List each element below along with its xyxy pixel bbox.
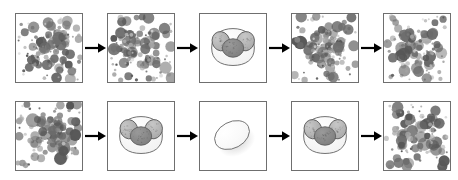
arrow-right-icon — [83, 37, 107, 59]
arrow-right-icon — [83, 125, 107, 147]
cell-suspension-panel — [291, 13, 359, 83]
cell-cluster-panel — [107, 101, 175, 171]
arrow-right-icon — [267, 125, 291, 147]
egg-panel — [199, 101, 267, 171]
diagram-row-1 — [0, 8, 458, 88]
cell-suspension-panel — [15, 101, 83, 171]
cell-suspension-panel — [107, 13, 175, 83]
cell-cluster-panel — [291, 101, 359, 171]
arrow-right-icon — [267, 37, 291, 59]
arrow-right-icon — [359, 125, 383, 147]
cell-cluster-panel — [199, 13, 267, 83]
arrow-right-icon — [175, 125, 199, 147]
cell-suspension-panel — [15, 13, 83, 83]
arrow-right-icon — [359, 37, 383, 59]
process-diagram — [0, 0, 458, 180]
arrow-right-icon — [175, 37, 199, 59]
cell-suspension-panel — [383, 101, 451, 171]
diagram-row-2 — [0, 96, 458, 176]
cell-suspension-panel — [383, 13, 451, 83]
